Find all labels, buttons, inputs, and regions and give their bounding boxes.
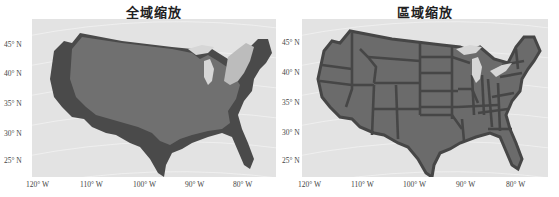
x-tick-label: 90° W (185, 180, 204, 189)
y-tick-label: 40° N (4, 69, 22, 78)
x-tick-label: 100° W (133, 180, 156, 189)
x-tick-label: 80° W (506, 180, 525, 189)
x-tick-label: 110° W (80, 180, 103, 189)
panel-global-scaling: 全域缩放 45° N 40° N 35° N 30° N 25° N 120° … (0, 0, 280, 197)
y-tick-label: 30° N (4, 129, 22, 138)
y-tick-label: 25° N (4, 156, 22, 165)
x-tick-label: 80° W (233, 180, 252, 189)
y-tick-label: 35° N (282, 98, 300, 107)
y-tick-label: 25° N (282, 156, 300, 165)
y-tick-label: 45° N (282, 38, 300, 47)
map-frame (32, 19, 276, 177)
map-regional (302, 19, 548, 177)
map-frame (302, 19, 548, 177)
y-tick-label: 45° N (4, 40, 22, 49)
panel-regional-scaling: 區域缩放 45° N 40° N 35° N 30° N 25° N (280, 0, 559, 197)
map-global (32, 19, 276, 177)
y-tick-label: 40° N (282, 68, 300, 77)
x-tick-label: 100° W (403, 180, 426, 189)
x-tick-label: 120° W (298, 180, 321, 189)
x-tick-label: 110° W (351, 180, 374, 189)
y-tick-label: 35° N (4, 99, 22, 108)
x-tick-label: 120° W (26, 180, 49, 189)
x-tick-label: 90° W (456, 180, 475, 189)
y-tick-label: 30° N (282, 128, 300, 137)
